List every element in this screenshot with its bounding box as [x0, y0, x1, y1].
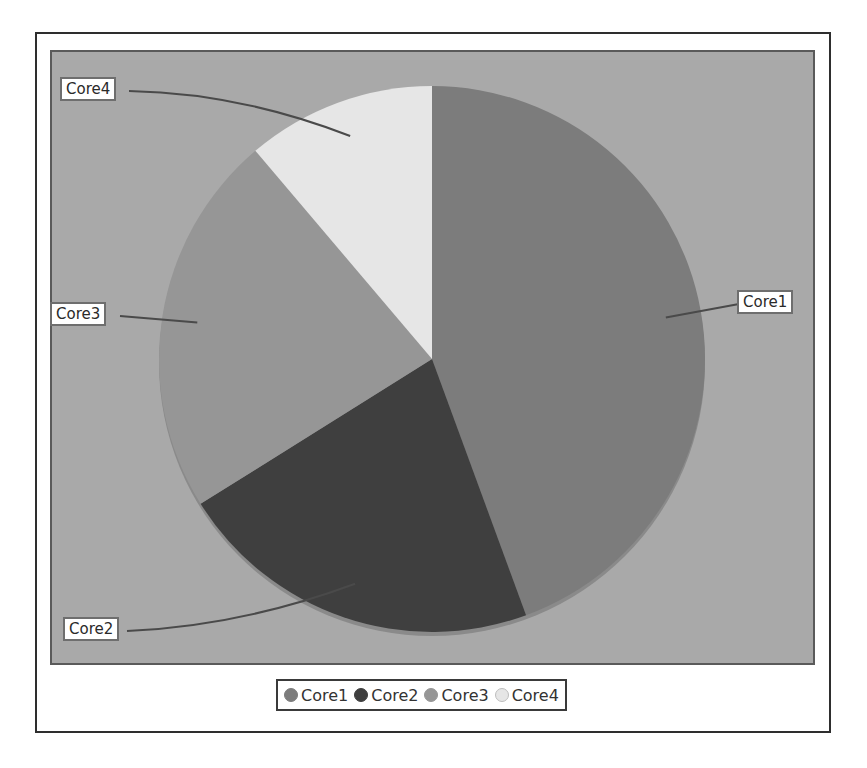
legend-label: Core2 [371, 686, 418, 705]
legend-label: Core4 [512, 686, 559, 705]
legend-item-core4: Core4 [495, 686, 559, 705]
legend-item-core2: Core2 [354, 686, 418, 705]
legend-swatch-icon [354, 688, 368, 702]
pie-slices [159, 86, 705, 636]
legend-swatch-icon [495, 688, 509, 702]
figure-page: Core4 Core3 Core1 Core2 Core1 Core2 Core… [0, 0, 867, 768]
legend-label: Core3 [441, 686, 488, 705]
legend-swatch-icon [284, 688, 298, 702]
pie-chart [52, 52, 815, 665]
slice-label-core1: Core1 [737, 290, 793, 314]
legend-item-core1: Core1 [284, 686, 348, 705]
slice-label-core3: Core3 [50, 302, 106, 326]
slice-label-core2: Core2 [63, 617, 119, 641]
plot-area [50, 50, 815, 665]
legend-label: Core1 [301, 686, 348, 705]
slice-label-core4: Core4 [60, 77, 116, 101]
chart-legend: Core1 Core2 Core3 Core4 [276, 679, 567, 711]
legend-swatch-icon [424, 688, 438, 702]
legend-item-core3: Core3 [424, 686, 488, 705]
